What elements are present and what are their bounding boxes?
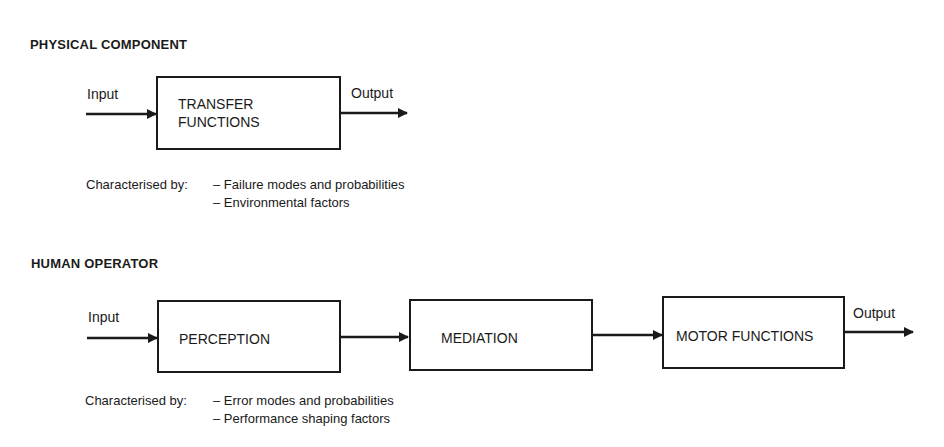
block-label-line1: TRANSFER [178,95,253,113]
mediation-block: MEDIATION [409,299,593,371]
block-label: PERCEPTION [179,330,270,348]
output-label-physical: Output [351,85,393,101]
section-title-physical-component: PHYSICAL COMPONENT [30,37,187,52]
input-label-human: Input [88,309,119,325]
characterised-by-label-human: Characterised by: [85,392,187,410]
transfer-functions-block: TRANSFER FUNCTIONS [156,76,341,150]
section-title-human-operator: HUMAN OPERATOR [31,256,158,271]
characteristic-item: – Failure modes and probabilities [213,176,405,194]
block-label: MEDIATION [441,329,518,347]
perception-block: PERCEPTION [157,300,341,373]
characteristic-item: – Error modes and probabilities [213,392,394,410]
input-label-physical: Input [87,86,118,102]
characteristic-item: – Environmental factors [213,194,350,212]
output-label-human: Output [853,305,895,321]
block-label-line2: FUNCTIONS [178,113,260,131]
characterised-by-label-physical: Characterised by: [86,176,188,194]
connector-arrows [0,0,944,447]
block-label: MOTOR FUNCTIONS [676,327,813,345]
characteristic-item: – Performance shaping factors [213,410,390,428]
motor-functions-block: MOTOR FUNCTIONS [662,296,845,369]
